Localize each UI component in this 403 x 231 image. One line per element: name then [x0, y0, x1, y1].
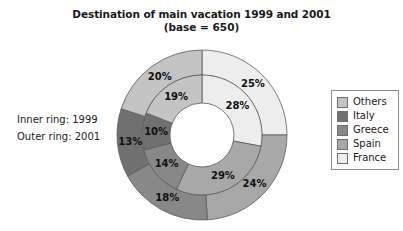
legend-swatch-icon — [337, 97, 348, 108]
chart-container: Destination of main vacation 1999 and 20… — [0, 0, 403, 231]
chart-legend: OthersItalyGreeceSpainFrance — [331, 90, 399, 170]
legend-item[interactable]: Spain — [337, 137, 394, 151]
legend-item[interactable]: Italy — [337, 109, 394, 123]
legend-item-label: Spain — [353, 139, 381, 149]
slice-value-label: 13% — [118, 136, 142, 147]
legend-item-label: France — [353, 153, 386, 163]
slice-value-label: 10% — [144, 126, 168, 137]
slice-value-label: 18% — [155, 192, 179, 203]
legend-item-label: Others — [353, 97, 387, 107]
slice-value-label: 20% — [148, 71, 172, 82]
slice-value-label: 24% — [243, 178, 267, 189]
slice-value-label: 29% — [211, 170, 235, 181]
legend-item-label: Greece — [353, 125, 389, 135]
slice-value-label: 28% — [225, 100, 249, 111]
legend-item[interactable]: Others — [337, 95, 394, 109]
legend-item[interactable]: France — [337, 151, 394, 165]
slice-value-label: 14% — [155, 158, 179, 169]
legend-swatch-icon — [337, 153, 348, 164]
legend-item[interactable]: Greece — [337, 123, 394, 137]
slice-value-label: 19% — [164, 91, 188, 102]
legend-swatch-icon — [337, 125, 348, 136]
legend-swatch-icon — [337, 139, 348, 150]
slice-value-label: 25% — [241, 78, 265, 89]
legend-item-label: Italy — [353, 111, 375, 121]
legend-swatch-icon — [337, 111, 348, 122]
